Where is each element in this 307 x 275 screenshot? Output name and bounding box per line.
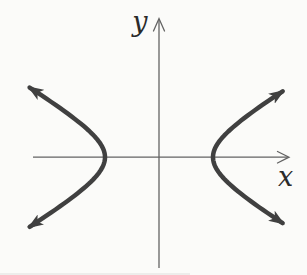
y-axis-label: y [131,6,148,37]
figure-canvas: y x [0,0,307,275]
x-axis-label: x [278,161,293,192]
axes: y x [33,6,293,268]
hyperbola-graph-figure: y x [0,0,307,275]
